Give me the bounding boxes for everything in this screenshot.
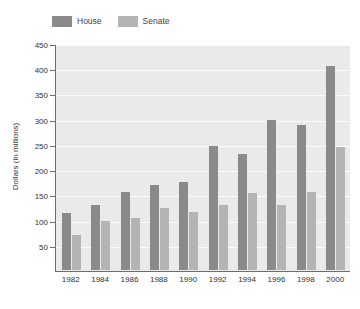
bar-group-1992 <box>209 45 228 270</box>
bar-house-2000 <box>326 66 335 270</box>
plot-area <box>55 45 350 272</box>
y-tick-label: 200 <box>35 167 48 176</box>
bar-house-1992 <box>209 146 218 270</box>
x-tick-label-1988: 1988 <box>150 275 168 284</box>
legend-entry-house: House <box>52 16 102 27</box>
chart-legend: House Senate <box>52 14 170 28</box>
bar-house-1984 <box>91 205 100 270</box>
x-axis-labels: 1982198419861988199019921994199619982000 <box>56 275 350 284</box>
plot-wrapper: 50100150200250300350400450 <box>55 45 350 272</box>
x-tick-label-1996: 1996 <box>268 275 286 284</box>
legend-swatch-senate <box>118 16 138 27</box>
x-tick-label-2000: 2000 <box>326 275 344 284</box>
bar-senate-1982 <box>72 235 81 270</box>
x-tick-label-1984: 1984 <box>91 275 109 284</box>
legend-label-senate: Senate <box>143 16 170 27</box>
y-tick-label: 350 <box>35 91 48 100</box>
y-tick-label: 50 <box>39 242 48 251</box>
x-tick-label-1998: 1998 <box>297 275 315 284</box>
x-tick-label-1990: 1990 <box>179 275 197 284</box>
bar-senate-1986 <box>131 218 140 270</box>
y-tick-label: 400 <box>35 66 48 75</box>
bar-senate-1996 <box>277 205 286 270</box>
legend-label-house: House <box>77 16 102 27</box>
bar-senate-1990 <box>189 212 198 270</box>
bar-senate-1994 <box>248 193 257 270</box>
y-tick-label: 450 <box>35 41 48 50</box>
bar-group-1986 <box>121 45 140 270</box>
bar-house-1994 <box>238 154 247 270</box>
y-tick-label: 150 <box>35 192 48 201</box>
bar-house-1990 <box>179 182 188 270</box>
bar-groups <box>57 45 350 270</box>
bar-group-1982 <box>62 45 81 270</box>
x-tick-label-1982: 1982 <box>62 275 80 284</box>
bar-senate-1992 <box>219 205 228 270</box>
y-tick-label: 300 <box>35 116 48 125</box>
y-axis-title: Dollars (in millions) <box>8 40 24 272</box>
y-axis-title-text: Dollars (in millions) <box>12 122 21 190</box>
bar-house-1986 <box>121 192 130 270</box>
bar-chart-figure: House Senate Dollars (in millions) 50100… <box>0 0 360 309</box>
x-tick-label-1992: 1992 <box>209 275 227 284</box>
bar-house-1982 <box>62 213 71 270</box>
bar-house-1988 <box>150 185 159 270</box>
bar-group-1996 <box>267 45 286 270</box>
y-axis-ticks: 50100150200250300350400450 <box>48 45 55 272</box>
bar-senate-1988 <box>160 208 169 270</box>
legend-entry-senate: Senate <box>118 16 170 27</box>
bar-senate-1998 <box>307 192 316 270</box>
bar-group-1988 <box>150 45 169 270</box>
y-tick-label: 250 <box>35 141 48 150</box>
bar-group-1998 <box>297 45 316 270</box>
x-tick-label-1986: 1986 <box>121 275 139 284</box>
bar-group-1990 <box>179 45 198 270</box>
bar-group-2000 <box>326 45 345 270</box>
y-tick-label: 100 <box>35 217 48 226</box>
bar-group-1984 <box>91 45 110 270</box>
x-tick-label-1994: 1994 <box>238 275 256 284</box>
legend-swatch-house <box>52 16 72 27</box>
bar-house-1998 <box>297 125 306 270</box>
bar-group-1994 <box>238 45 257 270</box>
bar-house-1996 <box>267 120 276 270</box>
bar-senate-2000 <box>336 147 345 270</box>
bar-senate-1984 <box>101 221 110 270</box>
